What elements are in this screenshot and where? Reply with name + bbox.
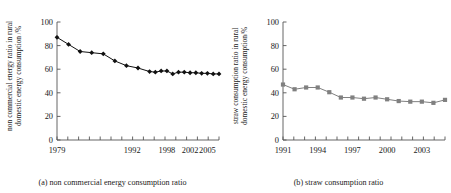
plot-area-a: 02040608010019791992199820022005	[26, 10, 222, 165]
chart-panel-b: straw consumption ratio in rural domesti…	[226, 0, 451, 193]
caption-a: (a) non commercial energy consumption ra…	[0, 178, 225, 187]
svg-text:1998: 1998	[159, 146, 176, 155]
svg-text:80: 80	[45, 42, 53, 51]
svg-text:1991: 1991	[275, 146, 292, 155]
svg-text:1992: 1992	[124, 146, 141, 155]
svg-text:100: 100	[40, 18, 53, 27]
svg-text:2003: 2003	[413, 146, 430, 155]
svg-text:1994: 1994	[309, 146, 327, 155]
svg-text:1997: 1997	[344, 146, 361, 155]
chart-svg-a: 02040608010019791992199820022005	[26, 10, 222, 165]
svg-text:60: 60	[271, 65, 279, 74]
plot-area-b: 02040608010019911994199720002003	[252, 10, 448, 165]
svg-text:0: 0	[49, 136, 53, 145]
svg-text:1979: 1979	[49, 146, 66, 155]
svg-text:40: 40	[45, 89, 53, 98]
svg-text:40: 40	[271, 89, 279, 98]
svg-text:20: 20	[271, 112, 279, 121]
svg-text:60: 60	[45, 65, 53, 74]
svg-text:2000: 2000	[379, 146, 396, 155]
y-axis-title-a: non commercial energy ratio in rural dom…	[5, 8, 25, 144]
svg-text:20: 20	[45, 112, 53, 121]
figure-two-panel-charts: non commercial energy ratio in rural dom…	[0, 0, 451, 193]
svg-text:80: 80	[271, 42, 279, 51]
svg-text:100: 100	[266, 18, 279, 27]
caption-b: (b) straw consumption ratio	[226, 178, 451, 187]
svg-text:2002: 2002	[182, 146, 199, 155]
svg-text:0: 0	[275, 136, 279, 145]
svg-text:2005: 2005	[199, 146, 216, 155]
y-axis-title-b: straw consumption ratio in rural domesti…	[231, 8, 251, 144]
chart-svg-b: 02040608010019911994199720002003	[252, 10, 448, 165]
chart-panel-a: non commercial energy ratio in rural dom…	[0, 0, 225, 193]
